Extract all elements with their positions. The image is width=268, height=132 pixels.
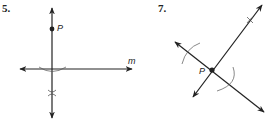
- construction-arc-lower: [217, 67, 234, 91]
- point-p-5: [50, 27, 55, 32]
- geometry-diagrams: [0, 0, 268, 132]
- intersection-mark-x-7: [247, 17, 253, 23]
- point-p-7: [209, 67, 214, 72]
- construction-arc-upper: [182, 43, 200, 64]
- diagonal-line-descending: [175, 42, 264, 112]
- figure-7-drawing: [175, 5, 264, 112]
- figure-5-drawing: [20, 8, 132, 118]
